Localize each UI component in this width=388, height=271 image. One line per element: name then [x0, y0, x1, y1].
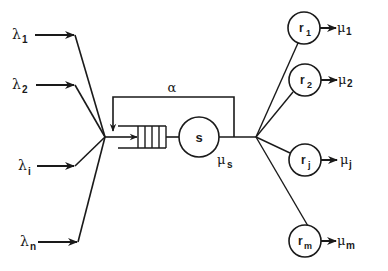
mu-subscript: j: [348, 159, 352, 170]
input-lambda-2: λ 2: [12, 76, 105, 137]
mu-subscript: m: [346, 240, 355, 251]
mu-subscript: 2: [347, 78, 353, 89]
mu-subscript: 1: [346, 26, 352, 37]
queueing-network-diagram: λ 1 λ 2 λ i λ n s μ s: [0, 0, 388, 271]
alpha-label: α: [168, 80, 177, 95]
r-subscript: 1: [306, 28, 311, 38]
lambda-subscript: i: [28, 166, 31, 177]
lambda-symbol: λ: [12, 26, 21, 42]
r-subscript: 2: [307, 80, 312, 90]
mu-symbol: μ: [337, 233, 345, 248]
server-rate: μ s: [217, 152, 233, 170]
input-lambda-i: λ i: [18, 137, 105, 177]
r-label: r: [299, 21, 304, 35]
r-label: r: [301, 153, 306, 167]
lambda-subscript: 2: [22, 84, 28, 95]
lambda-symbol: λ: [20, 233, 29, 249]
output-rj: r j μ j: [256, 137, 352, 176]
mu-symbol: μ: [217, 152, 225, 167]
output-r2: r 2 μ 2: [256, 64, 353, 137]
mu-symbol: μ: [338, 72, 346, 87]
mu-subscript: s: [227, 159, 233, 170]
lambda-symbol: λ: [18, 157, 27, 173]
lambda-symbol: λ: [12, 76, 21, 92]
mu-symbol: μ: [340, 152, 348, 167]
lambda-subscript: n: [30, 241, 36, 252]
r-label: r: [298, 234, 303, 248]
r-subscript: m: [304, 241, 312, 251]
r-label: r: [300, 73, 305, 87]
r-subscript: j: [307, 160, 311, 170]
lambda-subscript: 1: [22, 34, 28, 45]
server-node: s: [179, 117, 219, 157]
input-lambda-n: λ n: [20, 137, 105, 252]
input-lambda-1: λ 1: [12, 26, 105, 137]
mu-symbol: μ: [337, 20, 345, 35]
server-label: s: [195, 130, 202, 145]
